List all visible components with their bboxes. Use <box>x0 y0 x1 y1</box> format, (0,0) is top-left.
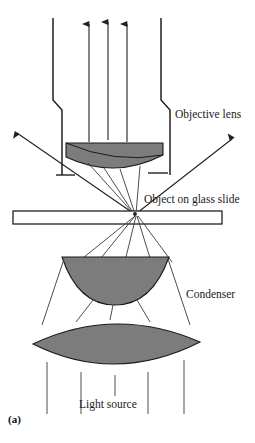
objective-barrel-left-wall <box>53 18 62 175</box>
emergent-ray-group <box>89 22 127 142</box>
objective-cone-ray-4 <box>136 166 140 214</box>
label-object-on-glass-slide: Object on glass slide <box>144 193 240 206</box>
label-light-source: Light source <box>79 398 137 411</box>
microscope-ray-diagram: Objective lens Object on glass slide Con… <box>0 0 255 443</box>
condenser-inner-ray-right <box>137 300 150 322</box>
glass-slide <box>13 211 222 224</box>
label-condenser: Condenser <box>186 288 235 301</box>
objective-lens-body <box>66 143 163 168</box>
diagram-canvas <box>0 0 255 443</box>
objective-cone-ray-group <box>88 163 140 214</box>
objective-cone-ray-2 <box>104 168 134 214</box>
figure-caption: (a) <box>8 413 21 425</box>
condenser-upper-lens <box>62 257 169 305</box>
objective-cone-ray-1 <box>88 163 134 214</box>
condenser-inner-ray-center <box>110 305 113 320</box>
specimen-point <box>133 212 137 216</box>
condenser-inner-ray-left <box>76 300 93 322</box>
label-objective-lens: Objective lens <box>175 108 241 121</box>
objective-lens-element <box>66 143 163 168</box>
condenser-inner-ray-outer-left <box>42 259 64 325</box>
barrel-foot-group <box>56 173 168 175</box>
condenser-lower-lens <box>33 324 200 364</box>
